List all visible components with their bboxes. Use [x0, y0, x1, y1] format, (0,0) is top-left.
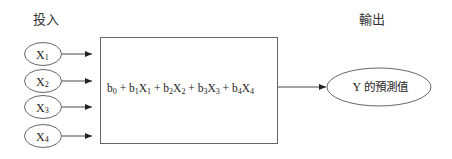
term-b4x4: b4X4 — [232, 82, 254, 94]
input-node-x2: X2 — [25, 70, 62, 93]
operator: + — [154, 82, 161, 94]
term-b2x2: b2X2 — [163, 82, 185, 94]
output-label: Y 的預測值 — [345, 78, 415, 95]
regression-formula: b0 + b1X1 + b2X2 + b3X3 + b4X4 — [107, 82, 254, 94]
operator: + — [120, 82, 127, 94]
operator: + — [223, 82, 230, 94]
input-node-x3: X3 — [25, 96, 62, 119]
output-description: 的預測值 — [364, 80, 408, 94]
term-b3x3: b3X3 — [198, 82, 220, 94]
input-node-x4: X4 — [25, 125, 62, 148]
term-b0: b0 — [107, 82, 117, 94]
input-node-x1: X1 — [25, 43, 62, 66]
term-b1x1: b1X1 — [129, 82, 151, 94]
output-y: Y — [352, 80, 360, 94]
operator: + — [188, 82, 195, 94]
